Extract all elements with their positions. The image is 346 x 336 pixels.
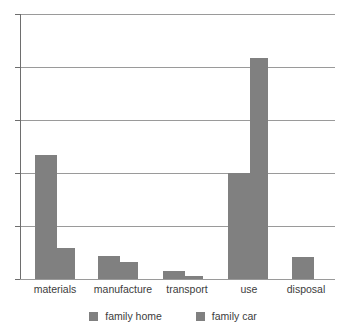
gridline — [20, 67, 335, 68]
gridline — [20, 226, 335, 227]
gridline — [20, 173, 335, 174]
bar-manufacture-family-home — [98, 256, 120, 279]
chart-legend: family home family car — [0, 310, 346, 323]
legend-label-family-home: family home — [105, 310, 162, 323]
bar-use-family-car — [250, 58, 268, 279]
y-axis-tick — [15, 120, 20, 121]
bar-manufacture-family-car — [120, 262, 138, 279]
bar-transport-family-home — [163, 271, 185, 279]
gridline — [20, 120, 335, 121]
y-axis-tick — [15, 173, 20, 174]
legend-swatch-family-home-icon — [89, 312, 98, 321]
y-axis-tick — [15, 226, 20, 227]
x-axis-baseline — [20, 279, 335, 280]
gridline — [20, 14, 335, 15]
legend-label-family-car: family car — [212, 310, 257, 323]
legend-entry-family-home: family home — [89, 310, 162, 323]
y-axis-tick — [15, 279, 20, 280]
legend-entry-family-car: family car — [196, 310, 257, 323]
bar-chart: materials manufacture transport use disp… — [0, 0, 346, 336]
bar-use-family-home — [228, 173, 250, 279]
y-axis-line — [20, 14, 21, 280]
y-axis-tick — [15, 14, 20, 15]
bar-materials-family-home — [35, 155, 57, 279]
plot-area — [20, 14, 335, 279]
legend-swatch-family-car-icon — [196, 312, 205, 321]
bar-materials-family-car — [57, 248, 75, 279]
x-axis-label-disposal: disposal — [267, 283, 345, 296]
bar-disposal-family-home — [292, 257, 314, 279]
y-axis-tick — [15, 67, 20, 68]
